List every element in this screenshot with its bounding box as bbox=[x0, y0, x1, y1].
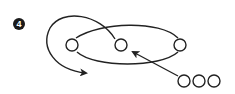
ellipse-top-arc bbox=[76, 25, 178, 38]
queue-node-2 bbox=[193, 75, 205, 87]
step-badge-number: 4 bbox=[16, 19, 21, 29]
cycle-diagram: 4 bbox=[0, 0, 235, 94]
queue-node-3 bbox=[208, 75, 220, 87]
curved-loop-arrow bbox=[47, 16, 115, 73]
ring-node-middle bbox=[115, 39, 127, 51]
step-badge: 4 bbox=[13, 18, 25, 30]
ring-node-left bbox=[66, 39, 78, 51]
ellipse-bottom-arc bbox=[77, 52, 178, 64]
ring-node-right bbox=[174, 39, 186, 51]
queue-node-1 bbox=[178, 75, 190, 87]
